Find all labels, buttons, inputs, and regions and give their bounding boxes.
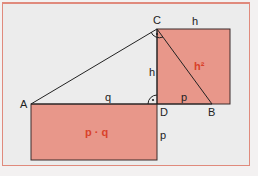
point-label-d: D: [160, 106, 168, 118]
point-label-a: A: [20, 98, 28, 110]
point-label-c: C: [153, 14, 161, 26]
area-label-pq: p · q: [85, 126, 108, 138]
segment-label-h-top: h: [192, 15, 198, 27]
segment-label-p-right: p: [160, 129, 166, 141]
segment-label-p-bottom: p: [181, 91, 187, 103]
right-angle-dot-d: [152, 99, 154, 101]
segment-label-h-vertical: h: [149, 66, 155, 78]
segment-label-q: q: [105, 91, 111, 103]
area-label-h-squared: h²: [194, 60, 205, 72]
geometry-diagram: C A D B h h q p p h² p · q: [0, 0, 258, 176]
right-angle-dot-c: [156, 33, 158, 35]
side-ac: [31, 29, 157, 104]
point-label-b: B: [208, 106, 215, 118]
